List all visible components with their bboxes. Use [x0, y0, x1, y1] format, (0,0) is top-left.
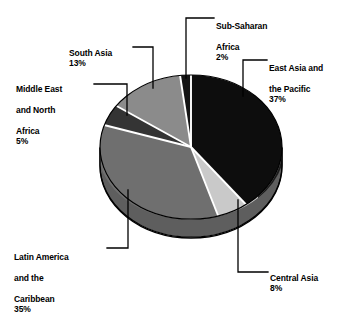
label-south-asia-line1: South Asia [69, 48, 112, 58]
value-latin-america: 35% [14, 304, 109, 315]
value-south-asia: 13% [69, 58, 135, 69]
label-middle-east-line1: Middle East [16, 84, 62, 94]
label-sub-saharan-africa-line1: Sub-Saharan [216, 21, 267, 31]
label-middle-east-line3: Africa [16, 126, 40, 136]
label-middle-east: Middle East and North Africa 5% [16, 73, 96, 157]
label-east-asia-pacific-line2: the Pacific [269, 84, 310, 94]
label-latin-america-line2: and the [14, 273, 44, 283]
leader-sub-saharan-africa [186, 18, 214, 78]
label-central-asia: Central Asia 8% [270, 262, 342, 304]
label-east-asia-pacific-line1: East Asia and [269, 63, 323, 73]
label-east-asia-pacific: East Asia and the Pacific 37% [269, 52, 343, 115]
label-central-asia-line1: Central Asia [270, 273, 318, 283]
label-latin-america-line1: Latin America [14, 252, 69, 262]
label-latin-america: Latin America and the Caribbean 35% [14, 241, 109, 316]
label-sub-saharan-africa-line2: Africa [216, 42, 240, 52]
label-south-asia: South Asia 13% [69, 37, 135, 79]
value-central-asia: 8% [270, 283, 342, 294]
value-east-asia-pacific: 37% [269, 94, 343, 105]
value-middle-east: 5% [16, 136, 96, 147]
label-middle-east-line2: and North [16, 105, 55, 115]
label-latin-america-line3: Caribbean [14, 294, 55, 304]
